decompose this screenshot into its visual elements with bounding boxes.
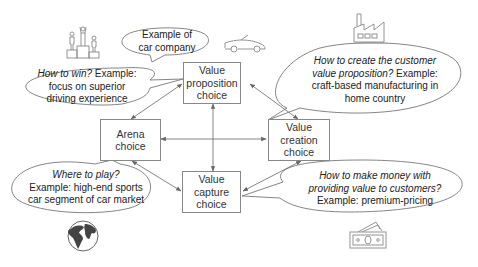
car-icon — [222, 34, 268, 56]
question-text: How to create the customer — [314, 55, 436, 66]
text-line: Example of — [142, 29, 192, 40]
podium-icon — [66, 26, 102, 60]
box-arena: Arenachoice — [100, 119, 161, 161]
factory-icon — [352, 10, 388, 44]
question-text: How to make money with — [319, 170, 431, 181]
box-value-creation: Valuecreationchoice — [268, 119, 330, 161]
text-line: Example: high-end sports — [29, 182, 142, 193]
question-text: Where to play? — [52, 169, 119, 180]
box-label: Value — [199, 64, 225, 76]
text-line: home country — [345, 93, 406, 104]
text-line: driving experience — [46, 93, 127, 104]
box-label: proposition — [186, 77, 237, 89]
globe-icon — [66, 219, 100, 253]
text-line: Example: — [92, 68, 136, 79]
box-value-capture: Valuecapturechoice — [182, 171, 241, 213]
bubble-text-how-to-create: How to create the customer value proposi… — [300, 55, 450, 105]
text-line: Example: — [393, 68, 437, 79]
box-value-proposition: Valuepropositionchoice — [183, 62, 241, 104]
text-line: focus on superior — [49, 81, 126, 92]
business-model-diagram: Valuepropositionchoice Arenachoice Value… — [0, 0, 478, 267]
text-line: car segment of car market — [28, 194, 144, 205]
bubble-text-company-example: Example of car company — [128, 29, 206, 54]
money-icon — [348, 220, 390, 250]
box-label: Value — [198, 173, 224, 185]
box-label: choice — [284, 146, 314, 158]
bubble-text-how-to-make-money: How to make money with providing value t… — [300, 170, 450, 208]
box-label: choice — [197, 89, 227, 101]
box-label: Value — [286, 121, 312, 133]
box-label: capture — [194, 186, 229, 198]
question-text: How to win? — [38, 68, 92, 79]
text-line: craft-based manufacturing in — [312, 80, 439, 91]
question-text: value proposition? — [312, 68, 393, 79]
box-label: choice — [115, 140, 145, 152]
box-label: Arena — [116, 128, 144, 140]
box-label: choice — [196, 198, 226, 210]
question-text: providing value to customers? — [309, 183, 442, 194]
box-label: creation — [280, 134, 317, 146]
bubble-text-how-to-win: How to win? Example: focus on superior d… — [28, 68, 146, 106]
text-line: car company — [138, 42, 195, 53]
text-line: Example: premium-pricing — [317, 195, 433, 206]
bubble-text-where-to-play: Where to play? Example: high-end sports … — [22, 169, 150, 207]
